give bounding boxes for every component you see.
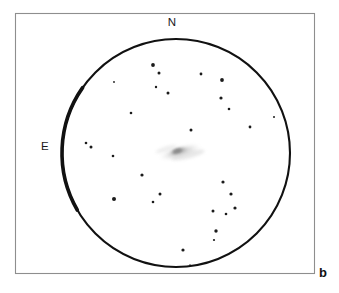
field-star bbox=[233, 206, 236, 209]
east-direction-label: E bbox=[41, 140, 49, 152]
field-star bbox=[200, 73, 203, 76]
field-star bbox=[229, 192, 232, 195]
field-star bbox=[112, 197, 116, 201]
field-star bbox=[130, 112, 133, 115]
panel-frame bbox=[16, 14, 315, 274]
field-star bbox=[220, 78, 224, 82]
field-star bbox=[273, 116, 275, 118]
field-star bbox=[167, 92, 170, 95]
field-star bbox=[213, 239, 215, 241]
field-star bbox=[225, 213, 228, 216]
observing-sketch-svg: N E b bbox=[0, 0, 339, 293]
field-star bbox=[159, 193, 162, 196]
field-star bbox=[113, 81, 115, 83]
field-star bbox=[85, 142, 88, 145]
field-star bbox=[155, 86, 157, 88]
field-star bbox=[249, 126, 252, 129]
field-star bbox=[190, 129, 193, 132]
field-star bbox=[90, 146, 93, 149]
field-star bbox=[140, 173, 143, 176]
field-star bbox=[181, 248, 184, 251]
figure-panel: N E b bbox=[0, 0, 339, 293]
field-star bbox=[112, 155, 115, 158]
field-star bbox=[152, 201, 155, 204]
field-star bbox=[221, 180, 224, 183]
field-star bbox=[189, 264, 191, 266]
panel-letter-label: b bbox=[319, 265, 327, 280]
field-star bbox=[228, 108, 231, 111]
field-star bbox=[214, 229, 217, 232]
north-direction-label: N bbox=[168, 16, 177, 28]
field-star bbox=[151, 63, 155, 67]
field-star bbox=[219, 96, 222, 99]
field-star bbox=[158, 72, 161, 75]
field-star bbox=[212, 210, 215, 213]
